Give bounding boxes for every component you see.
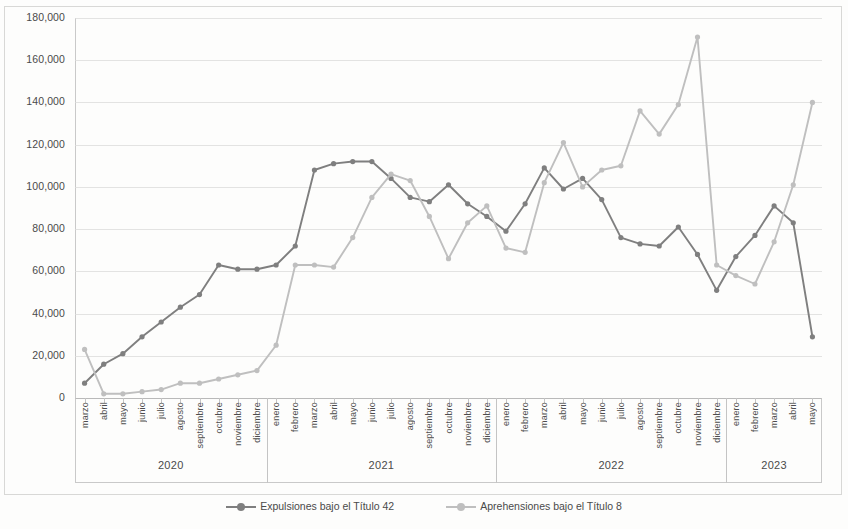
y-tick-label: 40,000: [1, 307, 65, 319]
data-point: [542, 165, 547, 170]
data-point: [695, 252, 700, 257]
data-point: [618, 163, 623, 168]
x-month-label: agosto: [405, 402, 415, 430]
data-point: [197, 292, 202, 297]
data-point: [293, 243, 298, 248]
series-line-0: [85, 162, 813, 384]
data-point: [523, 250, 528, 255]
x-month-label: mayo: [807, 402, 817, 425]
series-line-1: [85, 37, 813, 394]
data-point: [235, 372, 240, 377]
y-tick-label: 160,000: [1, 53, 65, 65]
year-label: 2023: [726, 459, 822, 471]
x-month-label: agosto: [635, 402, 645, 430]
x-month-label: octubre: [673, 402, 683, 433]
data-point: [561, 140, 566, 145]
x-month-label: marzo: [80, 402, 90, 428]
data-point: [791, 182, 796, 187]
data-point: [427, 199, 432, 204]
data-point: [235, 267, 240, 272]
x-month-label: noviembre: [693, 402, 703, 446]
data-point: [714, 262, 719, 267]
legend-swatch-icon: [446, 501, 476, 511]
data-point: [427, 214, 432, 219]
data-point: [350, 159, 355, 164]
data-point: [733, 254, 738, 259]
x-month-label: enero: [731, 402, 741, 426]
data-point: [293, 262, 298, 267]
data-point: [82, 381, 87, 386]
x-month-label: enero: [271, 402, 281, 426]
y-tick-label: 180,000: [1, 11, 65, 23]
x-month-label: octubre: [444, 402, 454, 433]
data-point: [810, 334, 815, 339]
data-point: [772, 239, 777, 244]
legend-label: Expulsiones bajo el Título 42: [260, 500, 394, 512]
data-point: [159, 319, 164, 324]
y-tick-label: 0: [1, 391, 65, 403]
plot-area: [75, 18, 822, 398]
data-point: [752, 233, 757, 238]
x-month-label: mayo: [348, 402, 358, 425]
x-month-label: enero: [501, 402, 511, 426]
data-point: [580, 184, 585, 189]
chart-legend: Expulsiones bajo el Título 42Aprehension…: [0, 500, 848, 512]
data-point: [312, 167, 317, 172]
data-point: [637, 241, 642, 246]
x-month-label: agosto: [175, 402, 185, 430]
data-point: [791, 220, 796, 225]
data-point: [465, 201, 470, 206]
data-point: [523, 201, 528, 206]
legend-label: Aprehensiones bajo el Título 8: [480, 500, 622, 512]
data-point: [810, 100, 815, 105]
x-month-label: marzo: [539, 402, 549, 428]
x-month-label: abril: [788, 402, 798, 420]
data-point: [120, 391, 125, 396]
x-month-label: febrero: [290, 402, 300, 432]
data-point: [216, 262, 221, 267]
x-month-label: junio: [367, 402, 377, 422]
x-month-label: julio: [156, 402, 166, 419]
data-point: [101, 391, 106, 396]
data-point: [752, 281, 757, 286]
y-tick-label: 140,000: [1, 95, 65, 107]
x-month-label: septiembre: [424, 402, 434, 449]
x-month-label: febrero: [750, 402, 760, 432]
data-point: [331, 161, 336, 166]
data-point: [388, 172, 393, 177]
data-point: [82, 347, 87, 352]
data-point: [274, 343, 279, 348]
data-point: [561, 186, 566, 191]
data-point: [676, 224, 681, 229]
data-point: [197, 381, 202, 386]
x-month-label: abril: [558, 402, 568, 420]
data-point: [139, 334, 144, 339]
x-month-label: marzo: [769, 402, 779, 428]
data-point: [101, 362, 106, 367]
x-month-label: diciembre: [252, 402, 262, 443]
y-tick-label: 60,000: [1, 264, 65, 276]
x-month-label: septiembre: [654, 402, 664, 449]
x-month-label: junio: [597, 402, 607, 422]
data-point: [216, 376, 221, 381]
series-lines: [75, 18, 822, 398]
data-point: [120, 351, 125, 356]
legend-item-0[interactable]: Expulsiones bajo el Título 42: [226, 500, 394, 512]
data-point: [254, 267, 259, 272]
x-month-label: diciembre: [482, 402, 492, 443]
y-tick-label: 20,000: [1, 349, 65, 361]
legend-item-1[interactable]: Aprehensiones bajo el Título 8: [446, 500, 622, 512]
data-point: [599, 197, 604, 202]
data-point: [733, 273, 738, 278]
data-point: [618, 235, 623, 240]
legend-swatch-icon: [226, 501, 256, 511]
data-point: [369, 159, 374, 164]
data-point: [350, 235, 355, 240]
x-month-label: noviembre: [463, 402, 473, 446]
x-month-label: noviembre: [233, 402, 243, 446]
data-point: [695, 34, 700, 39]
x-month-label: febrero: [520, 402, 530, 432]
data-point: [676, 102, 681, 107]
x-month-label: abril: [99, 402, 109, 420]
data-point: [331, 265, 336, 270]
